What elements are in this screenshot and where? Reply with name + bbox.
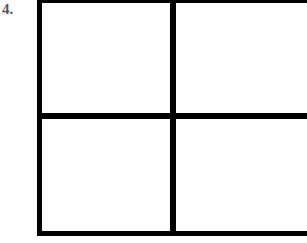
grid-cell-top-right — [176, 3, 307, 113]
grid-cell-bottom-right — [176, 119, 307, 231]
grid-cell-bottom-left — [42, 119, 170, 231]
grid-cell-top-left — [42, 3, 170, 113]
horizontal-divider — [42, 113, 307, 119]
two-by-two-grid — [37, 0, 307, 236]
figure-number-label: 4. — [2, 2, 13, 17]
